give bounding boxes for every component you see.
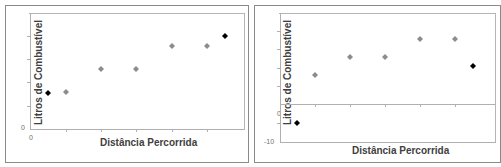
data-point [470, 63, 476, 69]
data-point [382, 54, 388, 60]
left-data-points [45, 33, 228, 96]
data-point [417, 36, 423, 42]
data-point [169, 43, 175, 49]
data-point [45, 90, 51, 96]
left-axes [27, 13, 244, 132]
data-point [133, 66, 139, 72]
data-point [294, 120, 300, 126]
data-point [222, 33, 228, 39]
data-point [98, 66, 104, 72]
right-axes [277, 13, 495, 143]
data-point [347, 54, 353, 60]
scatter-plots-svg [0, 0, 501, 167]
right-data-points [294, 36, 476, 126]
data-point [204, 43, 210, 49]
data-point [63, 89, 69, 95]
data-point [312, 72, 318, 78]
data-point [452, 36, 458, 42]
